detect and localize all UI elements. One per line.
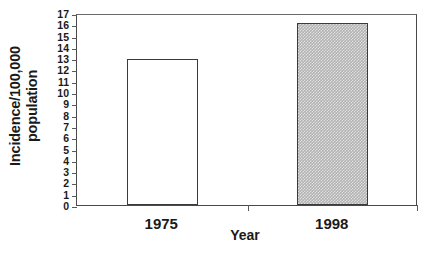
y-axis-tick-label: 14 <box>57 43 69 54</box>
y-axis-tick-label: 16 <box>57 20 69 31</box>
x-axis-tick-mark <box>248 205 249 211</box>
y-axis-title: Incidence/100,000 population <box>0 0 46 212</box>
bar-1975 <box>127 59 198 205</box>
y-axis-tick-mark <box>72 173 77 174</box>
y-axis-tick-mark <box>72 38 77 39</box>
y-axis-tick-label: 2 <box>63 178 69 189</box>
y-axis-tick-mark <box>72 128 77 129</box>
y-axis-tick-label: 8 <box>63 110 69 121</box>
y-axis-tick-label: 4 <box>63 156 69 167</box>
y-axis-tick-mark <box>72 94 77 95</box>
y-axis-tick-label: 6 <box>63 133 69 144</box>
y-axis-tick-mark <box>72 117 77 118</box>
y-axis-tick-label: 9 <box>63 99 69 110</box>
y-axis-tick-labels: 01234567891011121314151617 <box>46 0 72 212</box>
y-axis-tick-mark <box>72 60 77 61</box>
y-axis-tick-label: 3 <box>63 167 69 178</box>
y-axis-tick-label: 12 <box>57 65 69 76</box>
y-axis-tick-mark <box>72 105 77 106</box>
plot-area <box>76 14 417 206</box>
y-axis-title-line-2: population <box>23 46 40 166</box>
y-axis-tick-label: 11 <box>58 77 69 88</box>
y-axis-tick-mark <box>72 83 77 84</box>
y-axis-tick-label: 15 <box>57 31 69 42</box>
y-axis-tick-mark <box>72 49 77 50</box>
y-axis-title-line-1: Incidence/100,000 <box>7 46 24 166</box>
bar-chart-figure: Incidence/100,000 population 01234567891… <box>0 0 429 253</box>
y-axis-tick-mark <box>72 15 77 16</box>
x-axis-tick-label-1998: 1998 <box>315 216 348 231</box>
y-axis-tick-mark <box>72 207 77 208</box>
y-axis-tick-mark <box>72 139 77 140</box>
y-axis-tick-mark <box>72 26 77 27</box>
y-axis-tick-label: 0 <box>63 201 69 212</box>
y-axis-title-text: Incidence/100,000 population <box>7 46 40 166</box>
y-axis-tick-label: 17 <box>57 9 69 20</box>
y-axis-tick-mark <box>72 162 77 163</box>
x-axis-title: Year <box>230 228 260 242</box>
bar-1998 <box>297 23 368 205</box>
y-axis-tick-label: 7 <box>63 122 69 133</box>
y-axis-tick-label: 5 <box>63 144 69 155</box>
x-axis-tick-mark <box>417 205 418 211</box>
y-axis-tick-mark <box>72 151 77 152</box>
y-axis-tick-mark <box>72 184 77 185</box>
y-axis-tick-label: 10 <box>57 88 69 99</box>
y-axis-tick-mark <box>72 71 77 72</box>
y-axis-tick-mark <box>72 196 77 197</box>
x-axis-tick-label-1975: 1975 <box>145 216 178 231</box>
y-axis-tick-label: 1 <box>63 189 69 200</box>
y-axis-tick-label: 13 <box>57 54 69 65</box>
